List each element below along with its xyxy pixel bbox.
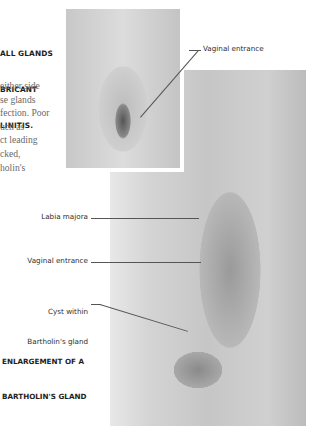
body-line: cked, bbox=[0, 147, 64, 161]
label-vaginal-entrance: Vaginal entrance bbox=[10, 256, 88, 266]
caption-title: ENLARGEMENT OF A BARTHOLIN'S GLAND bbox=[2, 333, 102, 425]
label-labia-majora: Labia majora bbox=[20, 212, 88, 222]
label-inset-vaginal-entrance: Vaginal entrance bbox=[203, 44, 264, 54]
caption-title-line: BARTHOLIN'S GLAND bbox=[2, 391, 102, 403]
label-cyst-line1: Cyst within bbox=[10, 307, 88, 317]
leader-line bbox=[91, 262, 201, 263]
heading-line: ALL GLANDS bbox=[0, 48, 64, 60]
leader-line bbox=[189, 50, 201, 51]
caption-title-line: ENLARGEMENT OF A bbox=[2, 356, 102, 368]
section-body-text: either side se glands fection. Poor uch … bbox=[0, 79, 64, 174]
body-line: either side bbox=[0, 79, 64, 93]
body-line: uch as bbox=[0, 120, 64, 134]
body-line: holin's bbox=[0, 161, 64, 175]
leader-line bbox=[91, 218, 199, 219]
caption-body: Here, a fluid-filled swelling has develo… bbox=[2, 425, 102, 433]
figure-caption: ENLARGEMENT OF A BARTHOLIN'S GLAND Here,… bbox=[2, 333, 102, 433]
body-line: se glands bbox=[0, 93, 64, 107]
body-line: ct leading bbox=[0, 133, 64, 147]
body-line: fection. Poor bbox=[0, 106, 64, 120]
